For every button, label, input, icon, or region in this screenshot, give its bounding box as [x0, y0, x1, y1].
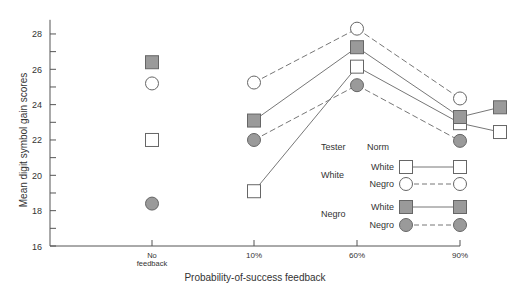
filled-circle-marker [248, 133, 261, 146]
y-tick-label: 22 [32, 135, 42, 145]
series-line [254, 85, 357, 140]
open-circle-marker [146, 77, 159, 90]
y-tick-label: 18 [32, 206, 42, 216]
x-tick-label: 60% [349, 251, 365, 260]
filled-circle-marker [400, 219, 413, 232]
x-tick-label: 10% [246, 251, 262, 260]
legend-norm-label: Negro [369, 220, 394, 230]
series-line [357, 67, 460, 124]
chart: 16182022242628Nofeedback10%60%90%Probabi… [0, 0, 528, 292]
series-line [357, 47, 460, 117]
series [254, 47, 500, 120]
open-circle-marker [351, 22, 364, 35]
series-line [357, 29, 460, 99]
filled-circle-marker [454, 219, 467, 232]
legend-header-norm: Norm [367, 142, 389, 152]
open-circle-marker [454, 92, 467, 105]
open-square-marker [146, 133, 159, 146]
legend-tester-label: White [321, 170, 344, 180]
series-line [357, 85, 460, 141]
legend-tester-label: Negro [321, 209, 346, 219]
open-square-marker [494, 126, 507, 139]
legend: TesterNormWhiteWhiteNegroNegroWhiteNegro [321, 142, 467, 232]
legend-header-tester: Tester [321, 142, 346, 152]
series-line [254, 47, 357, 120]
filled-square-marker [351, 41, 364, 54]
open-circle-marker [454, 178, 467, 191]
filled-square-marker [146, 56, 159, 69]
open-square-marker [400, 161, 413, 174]
y-axis-title: Mean digit symbol gain scores [18, 73, 29, 208]
x-axis-title: Probability-of-success feedback [184, 272, 326, 283]
y-tick-label: 20 [32, 171, 42, 181]
y-tick-label: 28 [32, 29, 42, 39]
filled-circle-marker [146, 197, 159, 210]
filled-square-marker [400, 201, 413, 214]
y-tick-label: 16 [32, 242, 42, 252]
legend-norm-label: White [371, 202, 394, 212]
y-tick-label: 26 [32, 65, 42, 75]
series-line [254, 29, 357, 83]
series [254, 85, 460, 141]
legend-norm-label: White [371, 162, 394, 172]
filled-square-marker [494, 101, 507, 114]
filled-circle-marker [454, 134, 467, 147]
open-square-marker [248, 185, 261, 198]
open-circle-marker [248, 76, 261, 89]
filled-square-marker [454, 201, 467, 214]
open-square-marker [351, 60, 364, 73]
open-square-marker [454, 161, 467, 174]
filled-square-marker [248, 114, 261, 127]
open-circle-marker [400, 178, 413, 191]
legend-norm-label: Negro [369, 179, 394, 189]
x-tick-label: 90% [452, 251, 468, 260]
filled-square-marker [454, 111, 467, 124]
y-tick-label: 24 [32, 100, 42, 110]
x-tick-label: feedback [137, 259, 168, 268]
filled-circle-marker [351, 79, 364, 92]
